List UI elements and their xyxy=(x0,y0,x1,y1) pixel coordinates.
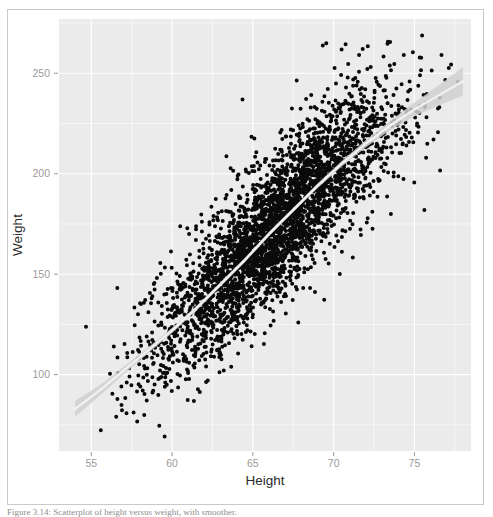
y-axis-title: Weight xyxy=(10,214,25,256)
figure-frame: 5560657075Height100150200250Weight xyxy=(7,9,484,505)
y-tick-label: 150 xyxy=(32,268,50,280)
y-tick-label: 200 xyxy=(32,167,50,179)
x-axis-title: Height xyxy=(245,473,284,488)
x-tick-label: 70 xyxy=(328,457,340,469)
figure-caption: Figure 3.14: Scatterplot of height versu… xyxy=(7,507,484,517)
scatter-plot: 5560657075Height100150200250Weight xyxy=(8,10,483,504)
x-tick-label: 60 xyxy=(166,457,178,469)
x-axis: 5560657075Height xyxy=(85,452,420,488)
x-tick-label: 75 xyxy=(409,457,421,469)
plot-canvas: 5560657075Height100150200250Weight xyxy=(8,10,483,504)
y-tick-label: 250 xyxy=(32,67,50,79)
x-tick-label: 55 xyxy=(85,457,97,469)
y-tick-label: 100 xyxy=(32,368,50,380)
y-axis: 100150200250Weight xyxy=(10,67,58,380)
x-tick-label: 65 xyxy=(247,457,259,469)
